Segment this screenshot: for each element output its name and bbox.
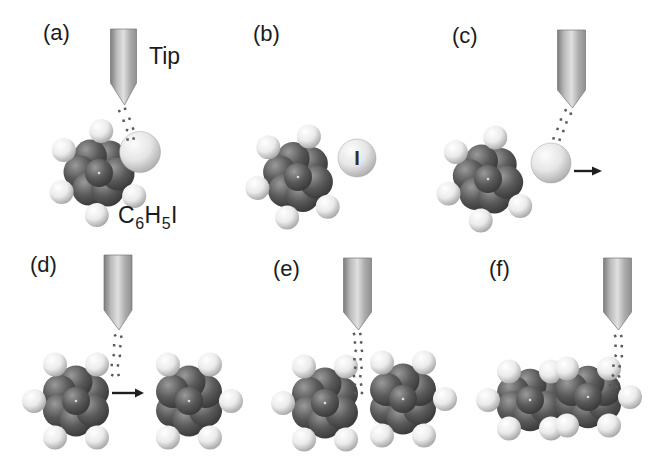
figure-graphics bbox=[0, 0, 660, 460]
phenyl-molecule-left bbox=[22, 353, 109, 450]
panel-d-graphics bbox=[22, 255, 243, 449]
panel-label-c: (c) bbox=[452, 23, 478, 49]
hydrogen-atom bbox=[22, 389, 46, 413]
hydrogen-atom bbox=[412, 351, 436, 375]
hydrogen-atom bbox=[476, 388, 500, 412]
dot bbox=[552, 137, 555, 140]
hydrogen-atom bbox=[198, 353, 222, 377]
molecule-formula-label: C6H5I bbox=[118, 202, 178, 233]
hydrogen-atom bbox=[618, 385, 642, 409]
panel-label-f: (f) bbox=[489, 256, 510, 282]
dot bbox=[354, 349, 357, 352]
dot bbox=[360, 383, 363, 386]
panel-e-graphics bbox=[271, 258, 457, 451]
hydrogen-atom bbox=[433, 387, 457, 411]
hydrogen-atom bbox=[219, 389, 243, 413]
hydrogen-atom bbox=[334, 427, 358, 451]
phenyl-molecule bbox=[245, 124, 339, 229]
panel-f-graphics bbox=[476, 258, 642, 440]
hydrogen-atom bbox=[85, 203, 109, 227]
biphenyl-ring-right bbox=[555, 357, 642, 438]
dot bbox=[120, 335, 123, 338]
dot bbox=[609, 384, 612, 387]
dot bbox=[116, 364, 119, 367]
hydrogen-atom bbox=[483, 126, 507, 150]
dot bbox=[359, 358, 362, 361]
phenyl-molecule-right bbox=[370, 351, 457, 448]
dot bbox=[620, 335, 623, 338]
hydrogen-atom bbox=[156, 353, 180, 377]
hydrogen-atom bbox=[597, 357, 621, 381]
ring-highlight bbox=[587, 396, 590, 399]
hydrogen-atom bbox=[85, 353, 109, 377]
stm-tip bbox=[111, 29, 137, 105]
stm-tip bbox=[604, 258, 632, 330]
phenyl-molecule bbox=[437, 126, 533, 233]
dot bbox=[620, 355, 623, 358]
dot bbox=[360, 366, 363, 369]
stm-tip bbox=[344, 258, 372, 330]
dot bbox=[128, 117, 131, 120]
ring-highlight bbox=[324, 402, 327, 405]
dot bbox=[564, 109, 567, 112]
dot bbox=[113, 334, 116, 337]
ring-highlight bbox=[188, 400, 191, 403]
hydrogen-atom bbox=[316, 195, 340, 219]
dot bbox=[111, 373, 114, 376]
dot bbox=[354, 392, 357, 395]
dot bbox=[119, 345, 122, 348]
stm-tip bbox=[104, 255, 132, 330]
dot bbox=[562, 130, 565, 133]
dot bbox=[118, 109, 121, 112]
ring-highlight bbox=[75, 400, 78, 403]
dot bbox=[360, 349, 363, 352]
dot bbox=[113, 344, 116, 347]
hydrogen-atom bbox=[85, 425, 109, 449]
dot bbox=[613, 334, 616, 337]
hydrogen-atom bbox=[43, 353, 67, 377]
hydrogen-atom bbox=[370, 423, 394, 447]
dot bbox=[359, 375, 362, 378]
dot bbox=[353, 358, 356, 361]
dot bbox=[565, 121, 568, 124]
hydrogen-atom bbox=[508, 194, 532, 218]
iodine-atom-label: I bbox=[354, 147, 360, 170]
ring-highlight bbox=[297, 176, 300, 179]
hydrogen-atom bbox=[245, 176, 269, 200]
dot bbox=[556, 127, 559, 130]
biphenyl-ring-left bbox=[476, 360, 563, 441]
hydrogen-atom bbox=[555, 413, 579, 437]
hydrogen-atom bbox=[555, 357, 579, 381]
hydrogen-atom bbox=[437, 181, 461, 205]
tunneling-dots bbox=[110, 334, 122, 377]
ring-highlight bbox=[402, 398, 405, 401]
hydrogen-atom bbox=[292, 427, 316, 451]
dot bbox=[359, 333, 362, 336]
phenyl-molecule-right bbox=[156, 353, 243, 450]
panel-a-graphics bbox=[50, 29, 161, 227]
dot bbox=[352, 332, 355, 335]
hydrogen-atom bbox=[275, 206, 299, 230]
hydrogen-atom bbox=[292, 355, 316, 379]
dot bbox=[560, 118, 563, 121]
dot bbox=[354, 341, 357, 344]
hydrogen-atom bbox=[497, 360, 521, 384]
figure-canvas: (a) (b) (c) (d) (e) (f) Tip C6H5I I bbox=[0, 0, 660, 460]
hydrogen-atom bbox=[597, 413, 621, 437]
dot bbox=[117, 373, 120, 376]
dot bbox=[614, 354, 617, 357]
iodine-atom-attached bbox=[120, 132, 161, 173]
dot bbox=[353, 375, 356, 378]
hydrogen-atom bbox=[497, 416, 521, 440]
dot bbox=[122, 119, 125, 122]
stm-tip bbox=[558, 30, 586, 108]
dot bbox=[612, 364, 615, 367]
dot bbox=[558, 138, 561, 141]
dot bbox=[126, 138, 129, 141]
iodine-atom-moved bbox=[531, 143, 571, 183]
tip-label: Tip bbox=[149, 43, 180, 70]
motion-arrow-icon bbox=[112, 389, 144, 398]
hydrogen-atom bbox=[412, 423, 436, 447]
dot bbox=[124, 107, 127, 110]
formula-c: C bbox=[118, 202, 135, 228]
